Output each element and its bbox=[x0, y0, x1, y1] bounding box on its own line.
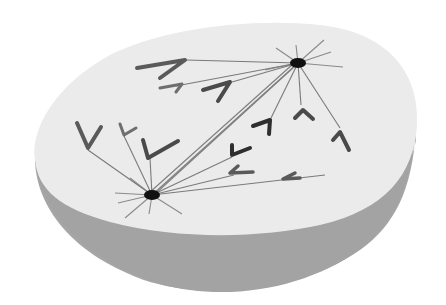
cell-spindle-diagram bbox=[0, 0, 446, 305]
lower-pole-centrosome bbox=[144, 190, 160, 200]
upper-pole-centrosome bbox=[290, 58, 306, 68]
diagram-stage bbox=[0, 0, 446, 305]
